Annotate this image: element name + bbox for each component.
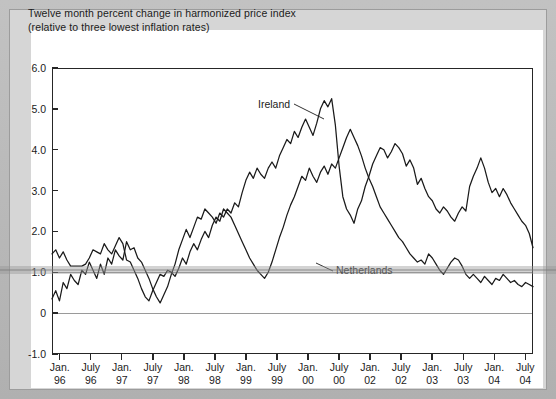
series-label-netherlands: Netherlands (336, 264, 393, 276)
series-label-ireland: Ireland (258, 98, 290, 110)
series-curves (0, 0, 556, 399)
leader-line-netherlands (316, 263, 333, 271)
chart-figure: Twelve month percent change in harmonize… (0, 0, 556, 399)
series-line-netherlands (52, 129, 533, 301)
